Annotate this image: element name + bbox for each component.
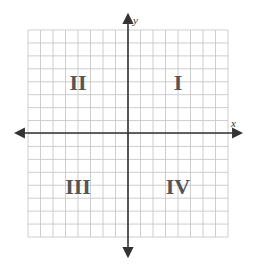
quadrant-ii-label: II bbox=[69, 70, 86, 95]
x-axis-label: x bbox=[230, 117, 236, 129]
quadrant-iii-label: III bbox=[65, 174, 91, 199]
y-axis-label: y bbox=[132, 14, 138, 26]
coordinate-plane: x y II I III IV bbox=[0, 0, 253, 264]
quadrant-i-label: I bbox=[174, 70, 183, 95]
quadrant-iv-label: IV bbox=[166, 174, 191, 199]
